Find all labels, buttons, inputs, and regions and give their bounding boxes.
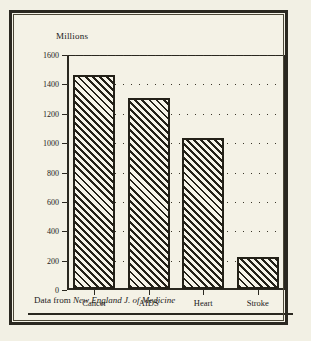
bar-heart[interactable] <box>182 138 224 289</box>
y-axis-tick-mark <box>62 114 67 115</box>
bar-cancer[interactable] <box>73 75 115 289</box>
y-axis-tick-label: 200 <box>47 256 59 265</box>
figure-page: Millions 02004006008001000120014001600Ca… <box>0 0 311 341</box>
figure-body: Millions 02004006008001000120014001600Ca… <box>25 27 296 334</box>
y-axis-title: Millions <box>56 31 88 41</box>
y-axis-tick-label: 1600 <box>43 51 59 60</box>
plot-area: 02004006008001000120014001600CancerAIDSH… <box>67 55 285 290</box>
bar-aids[interactable] <box>128 98 170 289</box>
y-axis-tick-label: 600 <box>47 197 59 206</box>
x-axis-tick-mark <box>258 290 259 295</box>
x-axis-label-heart: Heart <box>194 298 213 308</box>
y-axis-tick-mark <box>62 231 67 232</box>
y-axis-tick-label: 1000 <box>43 139 59 148</box>
caption-prefix: Data from <box>34 295 71 305</box>
x-axis-tick-mark <box>203 290 204 295</box>
y-axis-tick-mark <box>62 84 67 85</box>
y-axis-tick-mark <box>62 173 67 174</box>
y-axis-tick-mark <box>62 290 67 291</box>
x-axis-label-stroke: Stroke <box>247 298 269 308</box>
caption-source: New England J. of Medicine <box>73 295 175 305</box>
y-axis-tick-mark <box>62 55 67 56</box>
caption-divider <box>28 313 293 315</box>
y-axis-tick-label: 1400 <box>43 80 59 89</box>
y-axis-tick-mark <box>62 143 67 144</box>
y-axis-tick-label: 800 <box>47 168 59 177</box>
y-axis-tick-mark <box>62 261 67 262</box>
figure-frame: Millions 02004006008001000120014001600Ca… <box>9 10 288 325</box>
y-axis-tick-label: 0 <box>55 286 59 295</box>
gridline <box>67 55 285 56</box>
y-axis-tick-mark <box>62 202 67 203</box>
y-axis-tick-label: 1200 <box>43 109 59 118</box>
figure-caption: Data from New England J. of Medicine <box>34 295 175 305</box>
y-axis-tick-label: 400 <box>47 227 59 236</box>
bar-stroke[interactable] <box>237 257 279 289</box>
